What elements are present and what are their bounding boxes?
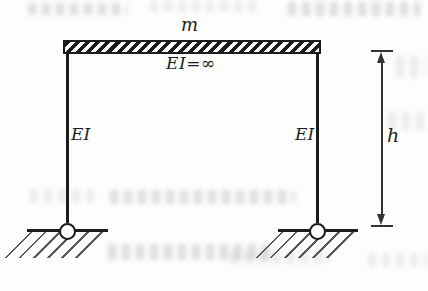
frame-diagram: m EI=∞ EI EI h bbox=[0, 0, 428, 291]
left-column-stiffness-label: EI bbox=[71, 126, 90, 143]
right-ground-hatch bbox=[254, 231, 357, 258]
bleedthrough-top-left bbox=[28, 3, 128, 15]
right-column-stiffness-label: EI bbox=[295, 126, 314, 143]
dimension-bottom-tick bbox=[371, 225, 393, 227]
left-pin-support-icon bbox=[59, 223, 76, 240]
bleedthrough-right-upper bbox=[396, 56, 426, 78]
rigid-beam bbox=[63, 40, 321, 54]
right-column bbox=[316, 53, 319, 223]
left-ground-hatch bbox=[3, 231, 106, 258]
left-column bbox=[66, 53, 69, 223]
height-dimension-label: h bbox=[387, 126, 399, 145]
bleedthrough-bottom-right bbox=[368, 253, 428, 267]
beam-stiffness-label: EI=∞ bbox=[166, 55, 216, 72]
right-pin-support-icon bbox=[309, 223, 326, 240]
mass-label: m bbox=[181, 16, 198, 34]
dimension-arrow-down-icon bbox=[377, 214, 385, 225]
bleedthrough-top-right bbox=[288, 2, 420, 16]
bleedthrough-top-middle bbox=[150, 1, 260, 12]
dimension-line bbox=[381, 57, 383, 217]
bleedthrough-center-band bbox=[110, 190, 295, 204]
bleedthrough-left-middle bbox=[30, 189, 100, 203]
